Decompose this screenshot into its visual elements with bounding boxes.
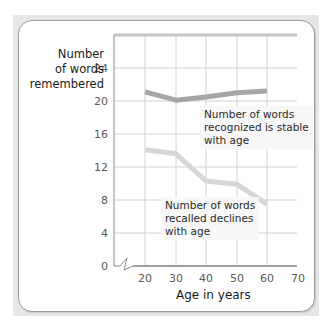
x-axis-label: Age in years	[176, 288, 251, 302]
svg-text:40: 40	[199, 272, 213, 285]
svg-text:20: 20	[138, 272, 152, 285]
annotation-line: recognized is stable	[204, 121, 309, 134]
y-axis-label-line: Number	[30, 47, 104, 62]
recognition-annotation: Number of words recognized is stable wit…	[200, 106, 313, 149]
y-axis-label: Number of words remembered	[30, 47, 104, 92]
recall-annotation: Number of words recalled declines with a…	[161, 197, 259, 240]
annotation-line: Number of words	[204, 108, 309, 121]
x-tick-labels: 20 30 40 50 60 70	[138, 272, 305, 285]
annotation-line: Number of words	[165, 199, 255, 212]
x-axis-break	[114, 258, 133, 270]
y-tick-labels: 0 4 8 12 16 20 24	[94, 62, 108, 273]
svg-text:70: 70	[291, 272, 305, 285]
svg-text:0: 0	[101, 260, 108, 273]
annotation-line: with age	[165, 225, 255, 238]
svg-text:16: 16	[94, 128, 108, 141]
svg-text:50: 50	[230, 272, 244, 285]
svg-text:30: 30	[169, 272, 183, 285]
svg-text:8: 8	[101, 194, 108, 207]
annotation-line: with age	[204, 134, 309, 147]
svg-text:12: 12	[94, 161, 108, 174]
y-axis-label-line: of words	[30, 62, 104, 77]
svg-text:60: 60	[260, 272, 274, 285]
svg-text:20: 20	[94, 95, 108, 108]
svg-text:4: 4	[101, 227, 108, 240]
y-axis-label-line: remembered	[30, 77, 104, 92]
annotation-line: recalled declines	[165, 212, 255, 225]
